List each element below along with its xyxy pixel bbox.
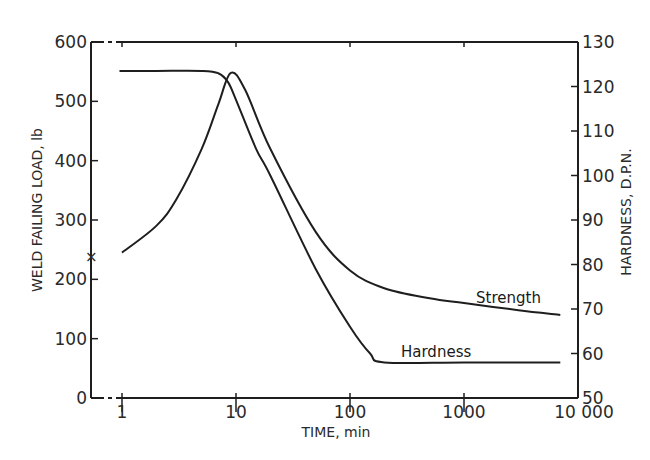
right-tick-label: 70 [582,299,604,319]
x-axis-title: TIME, min [301,424,371,440]
left-tick-label: 500 [55,91,87,111]
left-axis-tick-labels: 0100200300400500600 [55,32,87,408]
chart: 110100100010 000 0100200300400500600 506… [0,0,650,460]
right-axis-ticks [571,42,578,398]
left-tick-label: 200 [55,269,87,289]
hardness-label: Hardness [401,343,471,361]
x-tick-label: 1000 [442,402,485,422]
right-tick-label: 130 [582,32,614,52]
left-tick-label: 100 [55,329,87,349]
right-tick-label: 80 [582,255,604,275]
strength-label: Strength [476,289,541,307]
x-axis-tick-labels: 110100100010 000 [117,402,614,422]
right-tick-label: 90 [582,210,604,230]
x-tick-label: 100 [334,402,366,422]
left-axis-title: WELD FAILING LOAD, lb [29,128,45,292]
right-tick-label: 50 [582,388,604,408]
right-tick-label: 120 [582,77,614,97]
x-tick-label: 10 [225,402,247,422]
plot-frame [91,42,578,398]
right-tick-label: 110 [582,121,614,141]
right-tick-label: 100 [582,166,614,186]
strength-curve [122,72,560,315]
hardness-curve [120,71,561,363]
right-axis-title: HARDNESS, D.P.N. [618,148,634,275]
left-tick-label: 600 [55,32,87,52]
cross-marker-icon: × [85,248,98,266]
x-tick-label: 1 [117,402,128,422]
right-tick-label: 60 [582,344,604,364]
left-tick-label: 0 [76,388,87,408]
left-tick-label: 400 [55,151,87,171]
left-axis-ticks [91,42,98,398]
right-axis-tick-labels: 5060708090100110120130 [582,32,614,408]
left-tick-label: 300 [55,210,87,230]
